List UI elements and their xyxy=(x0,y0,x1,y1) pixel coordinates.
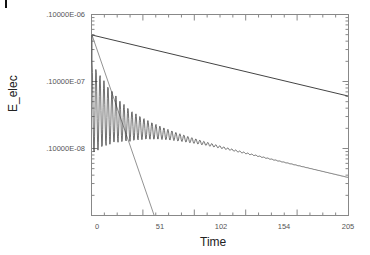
energy-oscillation-series xyxy=(92,35,348,177)
plot-area xyxy=(0,0,370,255)
plot-frame xyxy=(92,15,349,216)
upper-reference-line xyxy=(92,35,348,96)
axis-ticks xyxy=(92,15,349,216)
